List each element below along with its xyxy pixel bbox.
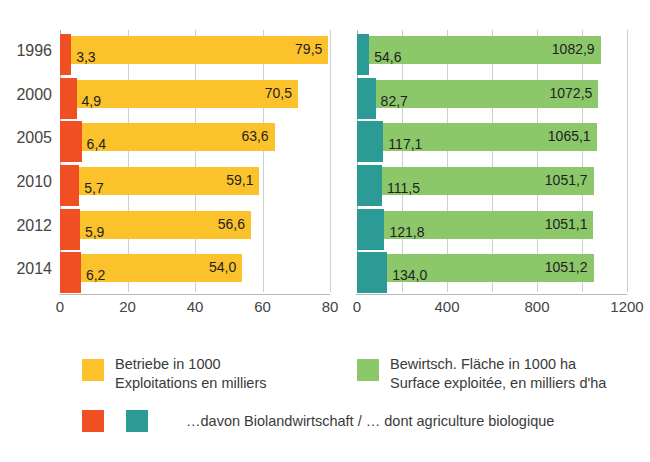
value-label-farms-total-2005: 63,6 [241, 128, 268, 144]
bar-area-organic-1996 [357, 34, 369, 75]
category-label-1996: 1996 [0, 42, 52, 60]
bar-farms-total-1996 [60, 36, 328, 64]
category-label-2014: 2014 [0, 260, 52, 278]
value-label-farms-total-2010: 59,1 [226, 172, 253, 188]
legend-label-farms-fr: Exploitations en milliers [115, 374, 267, 392]
axis-line [59, 294, 330, 295]
legend-swatch-organic-orange [82, 410, 104, 432]
value-label-farms-organic-2014: 6,2 [86, 267, 105, 283]
legend-swatch-organic-teal [126, 410, 148, 432]
value-label-farms-total-1996: 79,5 [295, 41, 322, 57]
xtick-farms-20: 20 [119, 298, 136, 315]
xtick-farms-80: 80 [322, 298, 339, 315]
value-label-area-organic-2012: 121,8 [389, 224, 424, 240]
legend-label-area-fr: Surface exploitée, en milliers d'ha [390, 374, 606, 392]
value-label-farms-organic-1996: 3,3 [76, 49, 95, 65]
plot-area-area: 54,61082,982,71072,5117,11065,1111,51051… [357, 30, 627, 292]
xtick-area-400: 400 [434, 298, 459, 315]
bar-row-2010: 5,759,1 [60, 161, 330, 205]
legend-label-organic: …davon Biolandwirtschaft / … dont agricu… [186, 412, 554, 430]
bar-row-2005: 117,11065,1 [357, 117, 627, 161]
value-label-farms-organic-2000: 4,9 [82, 93, 101, 109]
bar-row-2014: 134,01051,2 [357, 248, 627, 292]
gridline-80 [330, 30, 331, 292]
bar-area-organic-2012 [357, 209, 384, 250]
bar-area-organic-2014 [357, 252, 387, 293]
chart-panel-farms: 3,379,54,970,56,463,65,759,15,956,66,254… [60, 30, 330, 320]
value-label-farms-total-2014: 54,0 [209, 259, 236, 275]
value-label-farms-organic-2012: 5,9 [85, 224, 104, 240]
category-label-2005: 2005 [0, 129, 52, 147]
value-label-farms-organic-2005: 6,4 [87, 136, 106, 152]
value-label-area-organic-2000: 82,7 [381, 93, 408, 109]
value-label-area-total-2012: 1051,1 [545, 216, 588, 232]
chart-legend: Betriebe in 1000 Exploitations en millie… [0, 355, 650, 460]
value-label-area-organic-1996: 54,6 [374, 49, 401, 65]
value-label-farms-organic-2010: 5,7 [84, 180, 103, 196]
legend-swatch-area [357, 359, 379, 381]
bar-row-2012: 121,81051,1 [357, 205, 627, 249]
bar-row-2005: 6,463,6 [60, 117, 330, 161]
category-label-2000: 2000 [0, 86, 52, 104]
value-label-area-total-1996: 1082,9 [552, 41, 595, 57]
bar-area-organic-2005 [357, 121, 383, 162]
bar-row-2012: 5,956,6 [60, 205, 330, 249]
clipped-header-text [0, 0, 240, 8]
bar-row-2000: 82,71072,5 [357, 74, 627, 118]
xtick-area-0: 0 [353, 298, 361, 315]
value-label-farms-total-2000: 70,5 [265, 85, 292, 101]
legend-label-area-de: Bewirtsch. Fläche in 1000 ha [390, 355, 576, 373]
gridline-1200 [627, 30, 628, 292]
bar-farms-organic-2000 [60, 78, 77, 119]
bar-farms-organic-1996 [60, 34, 71, 75]
xtick-farms-60: 60 [254, 298, 271, 315]
plot-area-farms: 3,379,54,970,56,463,65,759,15,956,66,254… [60, 30, 330, 292]
chart-page: 199620002005201020122014 3,379,54,970,56… [0, 0, 650, 462]
legend-swatch-farms [82, 359, 104, 381]
bar-area-organic-2010 [357, 165, 382, 206]
value-label-area-total-2000: 1072,5 [549, 85, 592, 101]
value-label-area-organic-2014: 134,0 [392, 267, 427, 283]
value-label-area-organic-2005: 117,1 [388, 136, 422, 152]
bar-farms-organic-2014 [60, 252, 81, 293]
bar-row-2014: 6,254,0 [60, 248, 330, 292]
chart-panel-area: 54,61082,982,71072,5117,11065,1111,51051… [357, 30, 627, 320]
value-label-farms-total-2012: 56,6 [218, 216, 245, 232]
value-label-area-organic-2010: 111,5 [387, 180, 420, 196]
bar-farms-organic-2012 [60, 209, 80, 250]
bar-farms-organic-2005 [60, 121, 82, 162]
xtick-farms-0: 0 [56, 298, 64, 315]
bar-row-1996: 3,379,5 [60, 30, 330, 74]
legend-label-farms-de: Betriebe in 1000 [115, 355, 221, 373]
value-label-area-total-2010: 1051,7 [545, 172, 588, 188]
bar-row-2000: 4,970,5 [60, 74, 330, 118]
value-label-area-total-2005: 1065,1 [548, 128, 591, 144]
x-axis-area: 04008001200 [357, 294, 627, 320]
bar-area-organic-2000 [357, 78, 376, 119]
axis-line [356, 294, 627, 295]
category-label-2012: 2012 [0, 217, 52, 235]
x-axis-farms: 020406080 [60, 294, 330, 320]
xtick-area-1200: 1200 [610, 298, 643, 315]
bar-farms-organic-2010 [60, 165, 79, 206]
value-label-area-total-2014: 1051,2 [545, 259, 588, 275]
xtick-farms-40: 40 [187, 298, 204, 315]
bar-row-2010: 111,51051,7 [357, 161, 627, 205]
xtick-area-800: 800 [524, 298, 549, 315]
category-label-2010: 2010 [0, 173, 52, 191]
bar-row-1996: 54,61082,9 [357, 30, 627, 74]
